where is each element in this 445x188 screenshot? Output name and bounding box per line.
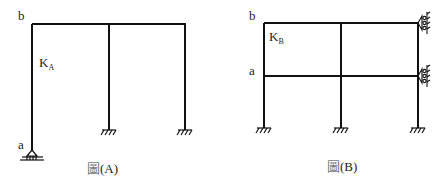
fixed-support-icon: [333, 128, 348, 133]
figure-b-label-a: a: [249, 63, 255, 78]
roller-support-icon: [418, 65, 430, 87]
figure-a-label-b: b: [18, 8, 25, 23]
fixed-support-icon: [177, 130, 192, 135]
fixed-support-icon: [101, 130, 116, 135]
fixed-support-icon: [256, 128, 271, 133]
figure-b-stiffness-label: KB: [269, 29, 284, 46]
frame-diagrams: b a KA 圖(A): [0, 0, 445, 188]
figure-a-stiffness-label: KA: [39, 55, 54, 72]
figure-b-label-b: b: [249, 8, 256, 23]
figure-a-caption: 圖(A): [87, 161, 118, 176]
figure-a-label-a: a: [18, 137, 24, 152]
figure-b: [264, 23, 419, 128]
fixed-support-icon: [410, 128, 425, 133]
figure-b-caption: 圖(B): [327, 159, 357, 174]
roller-support-icon: [418, 12, 430, 34]
figure-a: [32, 24, 186, 150]
